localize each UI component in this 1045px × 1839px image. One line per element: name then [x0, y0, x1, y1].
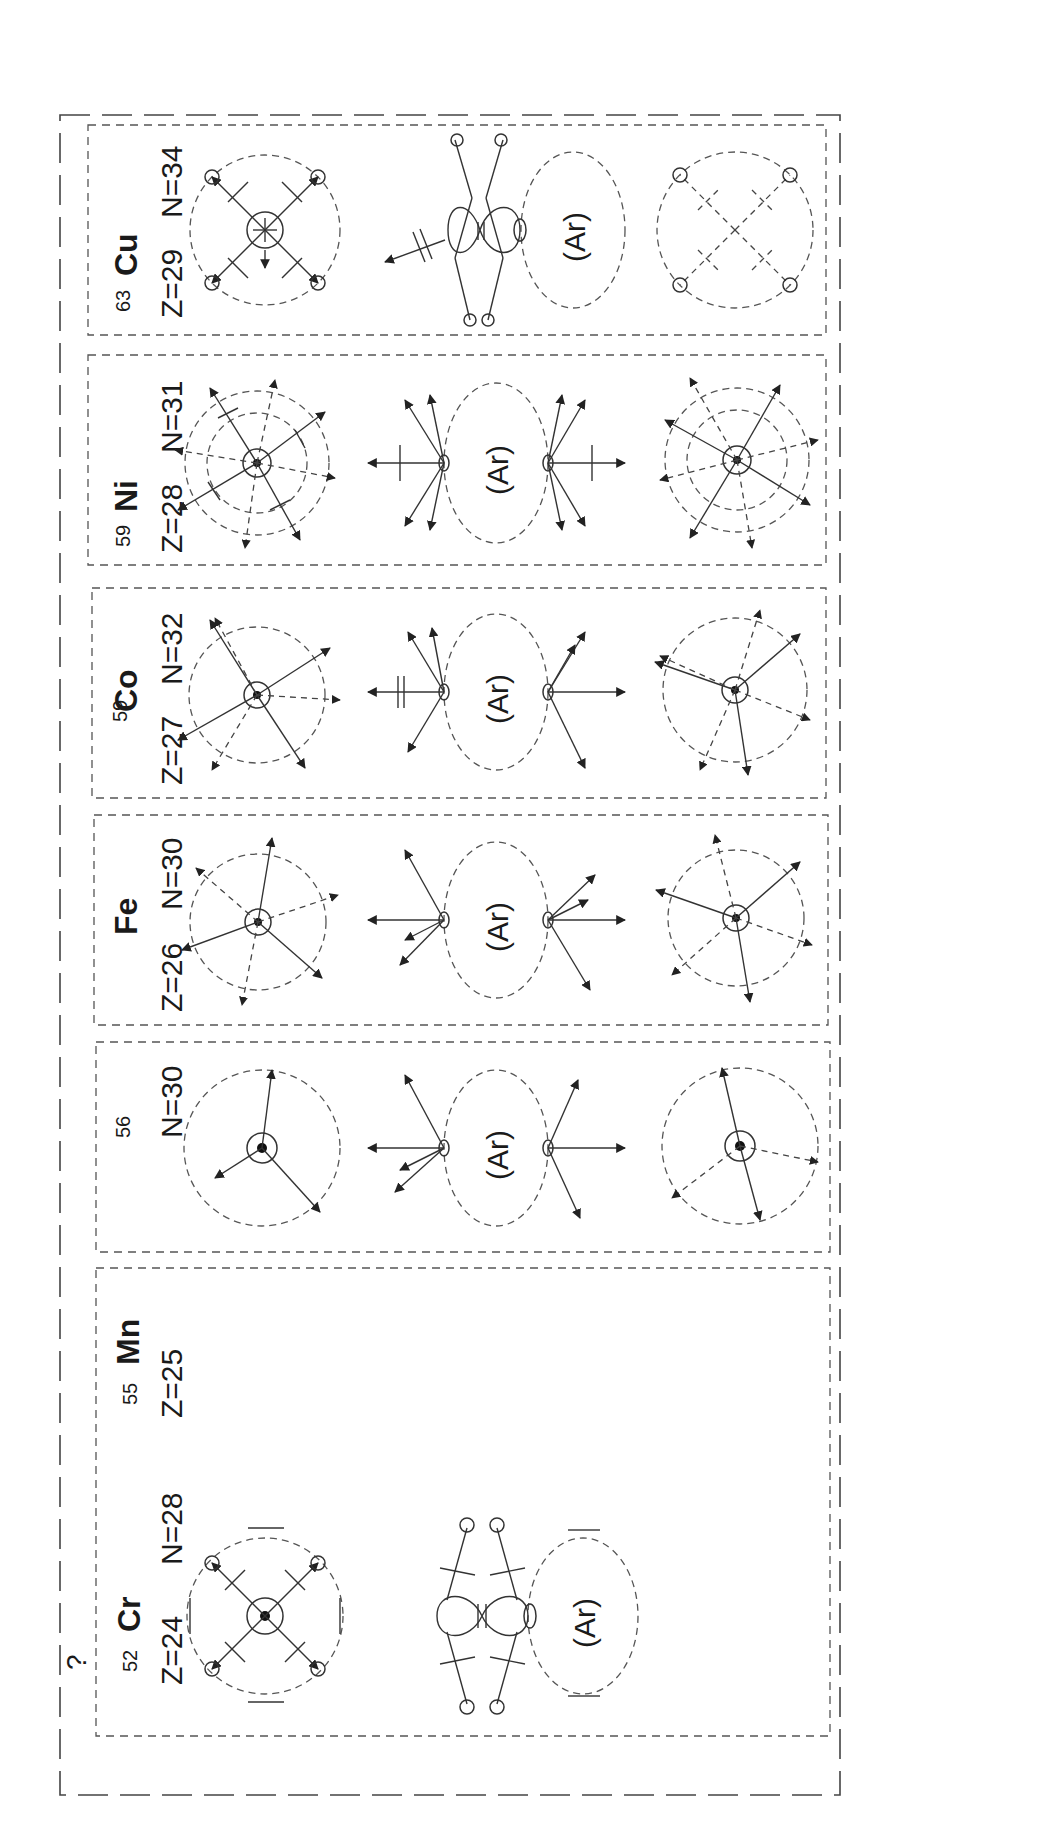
- co-symbol: Co: [108, 669, 144, 712]
- fe-n-label: N=30: [155, 837, 188, 910]
- fe-z-label: Z=26: [155, 943, 188, 1012]
- ni-n-label: N=31: [155, 380, 188, 453]
- panel-co: 59 Co Z=27 N=32 (Ar): [92, 588, 826, 798]
- panel-mn: 55 Mn Z=25 N=30 (Ar): [96, 1042, 830, 1418]
- cr-inner-shell-diagram: (Ar): [437, 1518, 638, 1714]
- ni-core-shell-diagram: [660, 378, 818, 548]
- cr-symbol: Cr: [111, 1596, 147, 1632]
- co-outer-shell-diagram: [178, 618, 340, 770]
- cu-core-shell-diagram: [657, 152, 813, 308]
- co-z-label: Z=27: [155, 716, 188, 785]
- co-n-label: N=32: [155, 612, 188, 685]
- mn-core-shell-diagram: [662, 1068, 818, 1224]
- ni-z-label: Z=28: [155, 484, 188, 553]
- ni-symbol: Ni: [108, 480, 144, 512]
- mn-outer-shell-diagram: [184, 1070, 340, 1226]
- ni-mass-number: 59: [112, 525, 134, 547]
- panel-cr: 52 Cr Z=24 N=28 (Ar): [96, 1268, 830, 1736]
- co-core-shell-diagram: [655, 610, 810, 775]
- cu-argon-core-label: (Ar): [558, 212, 591, 262]
- cr-n-label: N=28: [155, 1492, 188, 1565]
- mn-mass-number: 55: [119, 1383, 141, 1405]
- cu-mass-number: 63: [112, 290, 134, 312]
- cr-z-label: Z=24: [155, 1616, 188, 1685]
- fe-inner-shell-diagram: (Ar): [368, 842, 625, 998]
- panel-ni: 59 Ni Z=28 N=31 (Ar): [88, 355, 826, 565]
- cu-z-label: Z=29: [155, 249, 188, 318]
- fe-core-shell-diagram: [656, 835, 812, 1002]
- fe-mass-number: 56: [112, 1116, 134, 1138]
- cu-n-label: N=34: [155, 145, 188, 218]
- cr-mass-number: 52: [119, 1650, 141, 1672]
- fe-argon-core-label: (Ar): [481, 902, 514, 952]
- panel-cu: 63 Cu Z=29 N=34 (Ar): [88, 125, 826, 335]
- ni-argon-core-label: (Ar): [481, 445, 514, 495]
- cu-inner-shell-diagram: (Ar): [385, 134, 625, 326]
- cr-argon-core-label: (Ar): [568, 1598, 601, 1648]
- cr-outer-shell-diagram: [187, 1528, 343, 1702]
- mn-inner-shell-diagram: (Ar): [368, 1070, 625, 1226]
- fe-outer-shell-diagram: [182, 838, 338, 1005]
- mn-symbol: Mn: [110, 1319, 146, 1365]
- cu-symbol: Cu: [108, 233, 144, 276]
- fe-symbol: Fe: [108, 898, 144, 935]
- cu-outer-shell-diagram: [190, 155, 340, 305]
- ni-outer-shell-diagram: [175, 380, 335, 548]
- frame-question-mark: ?: [61, 1654, 92, 1670]
- element-structure-diagram: ? 63 Cu Z=29 N=34 (Ar): [0, 0, 1045, 1839]
- mn-argon-core-label: (Ar): [481, 1130, 514, 1180]
- mn-n-label: N=30: [155, 1065, 188, 1138]
- co-argon-core-label: (Ar): [481, 674, 514, 724]
- co-inner-shell-diagram: (Ar): [368, 614, 625, 770]
- mn-z-label: Z=25: [155, 1349, 188, 1418]
- ni-inner-shell-diagram: (Ar): [368, 383, 625, 543]
